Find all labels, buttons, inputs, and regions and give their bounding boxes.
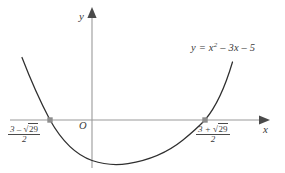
- y-axis-label: y: [79, 11, 84, 22]
- y-axis-arrowhead: [87, 7, 96, 18]
- right-root-label: 3 + √29 2: [196, 125, 230, 145]
- left-root-denominator: 2: [8, 135, 40, 144]
- left-root-radical: √29: [24, 123, 39, 134]
- left-root-numerator-prefix: 3 –: [10, 124, 24, 134]
- origin-label: O: [79, 121, 87, 132]
- right-root-numerator-prefix: 3 +: [198, 124, 213, 134]
- right-root-radical: √29: [213, 123, 228, 134]
- left-root-label: 3 – √29 2: [8, 125, 40, 145]
- equation-rhs: – 3x – 5: [217, 42, 255, 53]
- plot-canvas: [0, 0, 285, 173]
- right-root-marker: [202, 117, 207, 122]
- left-root-radicand: 29: [28, 123, 38, 134]
- parabola-curve: [22, 58, 233, 165]
- equation-annotation: y = x2 – 3x – 5: [191, 42, 255, 53]
- right-root-radicand: 29: [218, 123, 228, 134]
- left-root-fraction: 3 – √29 2: [8, 125, 40, 145]
- right-root-denominator: 2: [196, 135, 230, 144]
- x-axis-label: x: [263, 124, 268, 135]
- left-root-marker: [47, 117, 52, 122]
- right-root-fraction: 3 + √29 2: [196, 125, 230, 145]
- equation-lhs: y = x: [191, 42, 214, 53]
- quadratic-graph-figure: y x O y = x2 – 3x – 5 3 – √29 2 3 + √29 …: [0, 0, 285, 173]
